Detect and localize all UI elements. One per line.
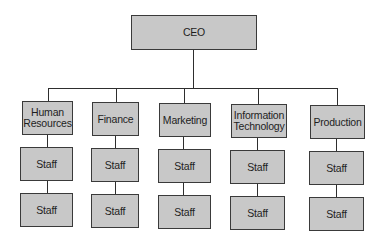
department-label: Production	[313, 117, 361, 128]
staff-box: Staff	[309, 197, 364, 231]
department-box-human-resources: Human Resources	[22, 101, 73, 135]
staff-box: Staff	[230, 196, 285, 230]
department-bus-line	[48, 88, 338, 89]
department-label: Marketing	[163, 115, 207, 126]
department-box-information-technology: Information Technology	[231, 104, 287, 138]
staff-box: Staff	[158, 195, 211, 229]
staff-label: Staff	[174, 161, 194, 172]
department-box-marketing: Marketing	[159, 103, 211, 137]
staff-box: Staff	[20, 193, 73, 227]
marketing-connector	[184, 88, 185, 103]
department-box-finance: Finance	[92, 102, 139, 136]
staff-box: Staff	[309, 151, 364, 185]
staff-box: Staff	[158, 149, 211, 183]
staff-label: Staff	[36, 205, 56, 216]
production-connector	[337, 88, 338, 105]
finance-connector	[116, 88, 117, 102]
ceo-label: CEO	[183, 27, 205, 38]
staff-label: Staff	[326, 209, 346, 220]
department-box-production: Production	[310, 105, 365, 139]
hr-connector	[48, 88, 49, 101]
it-connector	[258, 88, 259, 104]
department-label: Human Resources	[23, 107, 72, 129]
staff-label: Staff	[105, 206, 125, 217]
staff-label: Staff	[247, 208, 267, 219]
department-label: Information Technology	[232, 110, 286, 132]
staff-label: Staff	[326, 163, 346, 174]
staff-label: Staff	[105, 160, 125, 171]
staff-box: Staff	[91, 148, 139, 182]
staff-label: Staff	[36, 159, 56, 170]
staff-box: Staff	[91, 194, 139, 228]
staff-box: Staff	[230, 150, 285, 184]
staff-box: Staff	[20, 147, 73, 181]
ceo-connector	[193, 50, 194, 88]
staff-label: Staff	[174, 207, 194, 218]
department-label: Finance	[98, 114, 134, 125]
ceo-box: CEO	[131, 15, 257, 50]
staff-label: Staff	[247, 162, 267, 173]
